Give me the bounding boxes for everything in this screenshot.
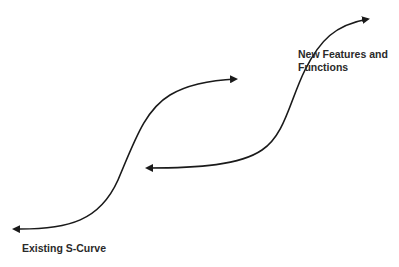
new-features-label: New Features and Functions [298,48,388,74]
new-features-label-line2: Functions [298,61,388,74]
new-features-label-line1: New Features and [298,48,388,61]
new-features-s-curve-line [147,19,368,168]
existing-s-curve-line [14,79,236,229]
existing-s-curve-label-text: Existing S-Curve [22,242,106,254]
s-curve-diagram [0,0,399,267]
existing-s-curve-label: Existing S-Curve [22,242,106,255]
